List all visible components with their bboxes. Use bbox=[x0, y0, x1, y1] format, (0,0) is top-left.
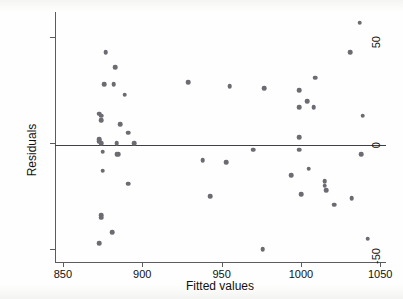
scatter-point bbox=[200, 158, 205, 163]
scatter-point bbox=[357, 20, 362, 25]
x-tick-mark bbox=[380, 262, 381, 267]
x-tick-mark bbox=[63, 262, 64, 267]
scatter-point bbox=[126, 181, 131, 186]
scatter-point bbox=[297, 88, 302, 93]
y-axis-title: Residuals bbox=[25, 123, 39, 176]
scatter-point bbox=[132, 141, 137, 146]
x-tick-label: 1050 bbox=[368, 268, 392, 280]
y-tick-label: 0 bbox=[370, 142, 382, 148]
scatter-point bbox=[262, 86, 267, 91]
y-axis-line bbox=[55, 12, 56, 262]
scatter-point bbox=[102, 82, 107, 87]
x-tick-label: 1000 bbox=[289, 268, 313, 280]
x-tick-label: 900 bbox=[133, 268, 151, 280]
scatter-point bbox=[113, 65, 118, 70]
x-tick-mark bbox=[142, 262, 143, 267]
scatter-point bbox=[227, 84, 232, 89]
scatter-point bbox=[365, 236, 370, 241]
scatter-point bbox=[311, 105, 316, 110]
x-axis-line bbox=[55, 262, 386, 263]
x-axis-title: Fitted values bbox=[186, 279, 254, 293]
scatter-point bbox=[99, 215, 104, 220]
scatter-point bbox=[297, 147, 302, 152]
scatter-point bbox=[289, 173, 294, 178]
scatter-point bbox=[349, 196, 354, 201]
scatter-point bbox=[299, 192, 304, 197]
scatter-point bbox=[123, 92, 128, 97]
y-tick-mark bbox=[50, 143, 55, 144]
y-tick-label: 50 bbox=[370, 36, 382, 48]
scatter-point bbox=[307, 166, 312, 171]
scatter-point bbox=[118, 122, 123, 127]
plot-area: 500-50 85090095010001050 bbox=[55, 12, 385, 262]
scatter-point bbox=[297, 135, 302, 140]
x-tick-label: 950 bbox=[212, 268, 230, 280]
zero-reference-line bbox=[55, 145, 386, 146]
scatter-point bbox=[97, 241, 102, 246]
scatter-point bbox=[208, 194, 213, 199]
y-tick-mark bbox=[50, 249, 55, 250]
x-tick-mark bbox=[222, 262, 223, 267]
scatter-point bbox=[332, 202, 337, 207]
scatter-point bbox=[99, 141, 104, 146]
scatter-point bbox=[251, 147, 256, 152]
scatter-point bbox=[110, 230, 115, 235]
scatter-point bbox=[100, 169, 105, 174]
x-tick-label: 850 bbox=[54, 268, 72, 280]
residual-plot-figure: Residuals Fitted values 500-50 850900950… bbox=[0, 0, 403, 299]
scatter-point bbox=[126, 130, 131, 135]
scatter-point bbox=[103, 50, 108, 55]
scatter-point bbox=[297, 105, 302, 110]
scatter-point bbox=[313, 75, 318, 80]
scatter-point bbox=[261, 247, 266, 252]
scatter-point bbox=[100, 150, 105, 155]
scatter-point bbox=[186, 80, 191, 85]
x-tick-mark bbox=[301, 262, 302, 267]
scatter-point bbox=[224, 160, 229, 165]
scatter-point bbox=[111, 82, 116, 87]
scatter-point bbox=[359, 152, 364, 157]
scatter-point bbox=[360, 114, 365, 119]
scatter-point bbox=[116, 152, 121, 157]
scatter-point bbox=[324, 188, 329, 193]
scatter-point bbox=[99, 118, 104, 123]
y-tick-mark bbox=[50, 37, 55, 38]
scatter-point bbox=[348, 50, 353, 55]
scatter-point bbox=[115, 141, 120, 146]
scan-artifact-top bbox=[0, 0, 403, 12]
scatter-point bbox=[305, 99, 310, 104]
